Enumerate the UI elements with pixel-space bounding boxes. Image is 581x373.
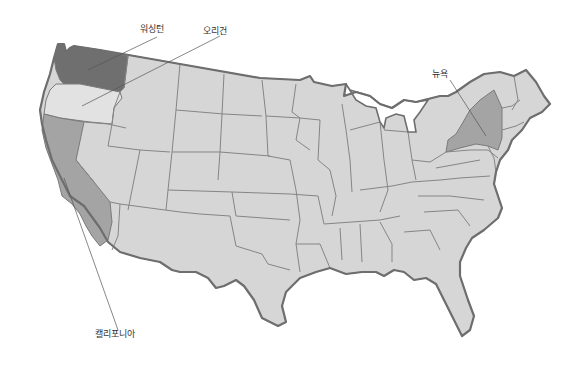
label-california: 캘리포니아	[95, 327, 135, 340]
label-washington: 워싱턴	[140, 22, 164, 35]
label-oregon: 오리건	[203, 24, 227, 37]
label-new-york: 뉴욕	[432, 67, 448, 80]
us-map	[0, 0, 581, 373]
